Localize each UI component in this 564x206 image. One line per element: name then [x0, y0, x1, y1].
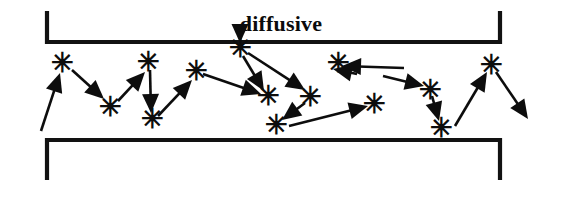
arrow-into-scatter-1-shaft: [41, 88, 55, 131]
asterisk-scattering-event-s5: ✳: [185, 56, 208, 86]
arrow-scatter10-sideline-shaft: [358, 67, 404, 68]
page-title: diffusive: [240, 11, 323, 36]
asterisk-scattering-event-s11: ✳: [363, 89, 386, 119]
asterisk-scattering-event-s2: ✳: [99, 92, 122, 122]
asterisk-scattering-event-s8: ✳: [299, 82, 322, 112]
arrow-scatter1-to-scatter2-shaft: [72, 70, 92, 88]
arrow-scatter11-to-scatter12-shaft: [383, 76, 408, 82]
asterisk-scattering-event-s13: ✳: [430, 113, 453, 143]
figure-canvas: ✳✳✳✳✳✳✳✳✳✳✳✳✳✳ diffusive: [0, 0, 564, 206]
arrow-scatter13-to-scatter14: [455, 72, 487, 126]
asterisk-scattering-event-s12: ✳: [419, 75, 442, 105]
asterisk-scattering-event-s10: ✳: [327, 48, 350, 78]
diffusive-transport-figure: ✳✳✳✳✳✳✳✳✳✳✳✳✳✳ diffusive: [0, 0, 564, 206]
arrow-scatter13-to-scatter14-shaft: [455, 86, 479, 126]
asterisk-scattering-event-s1: ✳: [51, 48, 74, 78]
asterisk-scattering-event-s3: ✳: [137, 47, 160, 77]
asterisk-scattering-event-s7: ✳: [257, 81, 280, 111]
scattering-events-layer: ✳✳✳✳✳✳✳✳✳✳✳✳✳✳: [51, 33, 503, 143]
arrow-scatter5-to-scatter7-shaft: [203, 74, 246, 89]
asterisk-scattering-event-s9: ✳: [265, 110, 288, 140]
asterisk-scattering-event-s6: ✳: [229, 33, 252, 63]
bottom-boundary-wall: [47, 140, 500, 180]
arrow-into-scatter-1: [41, 73, 62, 131]
asterisk-scattering-event-s4: ✳: [141, 104, 164, 134]
arrow-scatter14-outgoing-head-icon: [510, 99, 528, 119]
asterisk-scattering-event-s14: ✳: [480, 50, 503, 80]
